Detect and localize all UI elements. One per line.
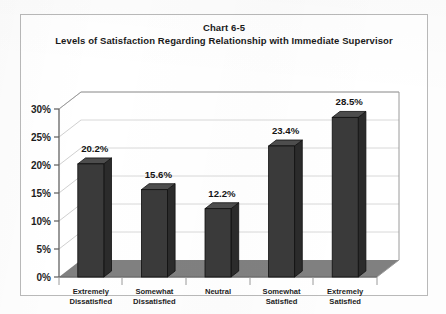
bar-column bbox=[332, 111, 366, 277]
category-label: Extremely bbox=[73, 287, 110, 296]
category-label: Neutral bbox=[205, 287, 231, 296]
y-axis-ticks bbox=[54, 109, 59, 277]
category-label: Somewhat bbox=[263, 287, 301, 296]
category-label: Dissatisfied bbox=[69, 297, 112, 306]
category-label: Somewhat bbox=[135, 287, 173, 296]
bar-value-label: 28.5% bbox=[336, 96, 364, 107]
bar-column bbox=[78, 158, 112, 277]
bar-front-face bbox=[141, 190, 167, 277]
chart-frame: Chart 6-5 Levels of Satisfaction Regardi… bbox=[20, 14, 428, 296]
bar-side-face bbox=[358, 111, 366, 277]
chart-subtitle: Levels of Satisfaction Regarding Relatio… bbox=[21, 35, 427, 48]
bar-side-face bbox=[167, 184, 175, 277]
bar-column bbox=[205, 203, 239, 277]
category-label: Dissatisfied bbox=[133, 297, 176, 306]
y-tick-label: 10% bbox=[31, 216, 51, 227]
bar-front-face bbox=[269, 146, 295, 277]
bar-side-face bbox=[104, 158, 112, 277]
bar-front-face bbox=[205, 209, 231, 277]
bar-value-label: 23.4% bbox=[272, 125, 300, 136]
scanned-page: Chart 6-5 Levels of Satisfaction Regardi… bbox=[0, 0, 446, 314]
bar-front-face bbox=[332, 117, 358, 277]
bar-front-face bbox=[78, 164, 104, 277]
y-tick-label: 5% bbox=[37, 244, 52, 255]
category-label: Satisfied bbox=[329, 297, 361, 306]
y-tick-label: 20% bbox=[31, 160, 51, 171]
category-label: Satisfied bbox=[266, 297, 298, 306]
y-tick-label: 15% bbox=[31, 188, 51, 199]
category-labels-group: ExtremelyDissatisfiedSomewhatDissatisfie… bbox=[69, 287, 364, 306]
bar-value-label: 20.2% bbox=[81, 143, 109, 154]
bar-side-face bbox=[231, 203, 239, 277]
y-tick-label: 25% bbox=[31, 132, 51, 143]
bar-side-face bbox=[295, 140, 303, 277]
y-axis-labels: 30% 25% 20% 15% 10% 5% 0% bbox=[31, 104, 51, 283]
y-tick-label: 30% bbox=[31, 104, 51, 115]
bar-column bbox=[141, 184, 175, 277]
chart-title: Chart 6-5 bbox=[21, 22, 427, 35]
chart-title-block: Chart 6-5 Levels of Satisfaction Regardi… bbox=[21, 22, 427, 47]
category-label: Extremely bbox=[327, 287, 364, 296]
x-axis-ticks bbox=[59, 277, 377, 285]
bar-value-label: 12.2% bbox=[208, 188, 236, 199]
bar-value-label: 15.6% bbox=[145, 169, 173, 180]
bar-chart-plot: 30% 25% 20% 15% 10% 5% 0% 20.2%15.6%12.2 bbox=[21, 57, 427, 314]
y-tick-label: 0% bbox=[37, 272, 52, 283]
bar-column bbox=[269, 140, 303, 277]
